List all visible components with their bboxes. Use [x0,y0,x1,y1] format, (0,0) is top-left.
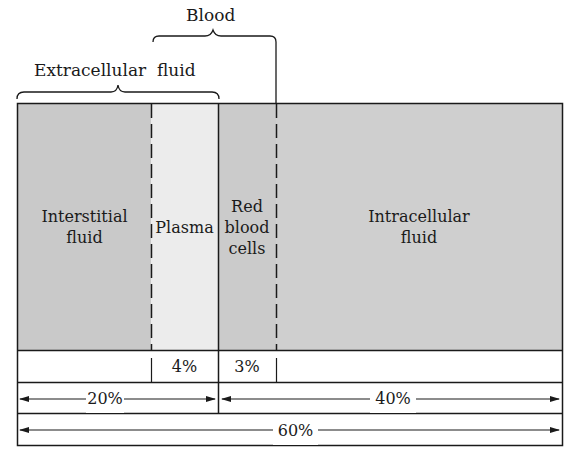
arrow-left-icon [19,396,29,402]
fluid-label: fluid [157,60,196,80]
rbc-label-1: Red [231,196,263,217]
intracellular-percent: 40% [370,384,416,413]
compartment-interstitial: Interstitial fluid [18,104,151,350]
rbc-label-3: cells [229,238,266,259]
extracellular-label: Extracellular [34,60,146,80]
intracellular-label: Intracellular [368,206,470,227]
extracellular-percent: 20% [86,384,124,413]
arrow-left-icon [221,396,231,402]
compartment-plasma: Plasma [151,104,218,350]
plasma-label: Plasma [155,217,213,238]
arrow-right-icon [206,396,216,402]
interstitial-label: Interstitial [41,206,127,227]
arrow-right-icon [550,396,560,402]
plasma-percent: 4% [151,351,218,382]
total-percent: 60% [273,415,318,445]
rbc-percent: 3% [218,351,276,382]
arrow-left-icon [19,427,29,433]
compartment-rbc: Red blood cells [218,104,276,350]
interstitial-label-2: fluid [66,227,102,248]
arrow-right-icon [550,427,560,433]
compartment-intracellular: Intracellular fluid [276,104,562,350]
intracellular-label-2: fluid [401,227,437,248]
extracellular-brace [17,85,219,99]
blood-label: Blood [186,5,235,25]
rbc-label-2: blood [225,217,270,238]
